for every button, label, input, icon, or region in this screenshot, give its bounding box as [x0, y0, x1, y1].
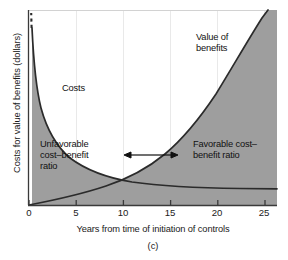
x-tick-label-0: 0	[17, 207, 41, 218]
y-axis-label: Costs for value of benefits (dollars)	[12, 3, 22, 203]
annotation-unfavorable-ratio: Unfavorable cost–benefit ratio	[40, 139, 88, 173]
figure-caption: (c)	[28, 241, 278, 251]
figure-panel: Costs for value of benefits (dollars) 0 …	[0, 0, 288, 260]
annotation-favorable-ratio: Favorable cost– benefit ratio	[193, 139, 257, 161]
x-tick-label-20: 20	[205, 207, 229, 218]
cost-benefit-area-chart	[0, 0, 288, 260]
x-tick-label-10: 10	[111, 207, 135, 218]
x-axis-label: Years from time of initiation of control…	[28, 224, 278, 234]
annotation-value-of-benefits: Value of benefits	[196, 32, 228, 54]
annotation-costs: Costs	[62, 83, 85, 94]
x-tick-label-25: 25	[252, 207, 276, 218]
x-tick-label-5: 5	[64, 207, 88, 218]
x-tick-label-15: 15	[158, 207, 182, 218]
